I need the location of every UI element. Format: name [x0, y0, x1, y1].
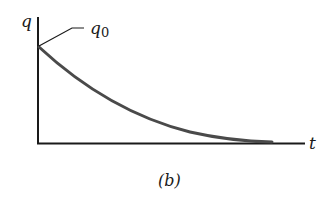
x-axis-label: t	[309, 133, 316, 153]
decay-curve	[39, 47, 272, 142]
figure-caption: (b)	[158, 171, 181, 190]
q0-label-subscript: 0	[101, 25, 109, 40]
q0-label: q0	[90, 18, 109, 40]
y-axis-label: q	[21, 11, 32, 31]
q0-label-main: q	[90, 18, 101, 38]
q0-leader-line	[39, 28, 84, 46]
decay-curve-figure: q q0 t (b)	[0, 0, 332, 204]
